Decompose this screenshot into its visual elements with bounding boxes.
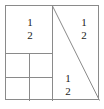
fraction-label-upper-left: 1 2 xyxy=(20,21,40,37)
fraction-denominator: 2 xyxy=(64,85,72,97)
figure-root: 1 2 1 2 1 2 xyxy=(0,0,104,109)
fraction-square-outline: 1 2 1 2 1 2 xyxy=(5,5,99,100)
fraction-numerator: 1 xyxy=(26,17,34,29)
fraction-denominator: 2 xyxy=(80,29,88,41)
fraction-label-upper-right: 1 2 xyxy=(74,21,94,37)
fraction-numerator: 1 xyxy=(80,17,88,29)
fraction-label-lower-right: 1 2 xyxy=(58,77,78,93)
fraction-numerator: 1 xyxy=(64,73,72,85)
fraction-denominator: 2 xyxy=(26,29,34,41)
